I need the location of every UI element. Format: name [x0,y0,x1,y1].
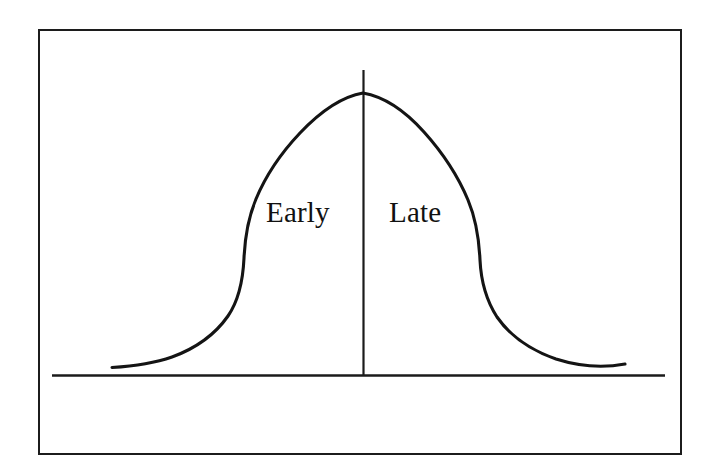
label-late: Late [389,198,441,227]
bell-curve-canvas [0,0,712,473]
label-early: Early [266,198,330,227]
figure-root: Early Late [0,0,712,473]
bell-curve-path [112,93,625,368]
